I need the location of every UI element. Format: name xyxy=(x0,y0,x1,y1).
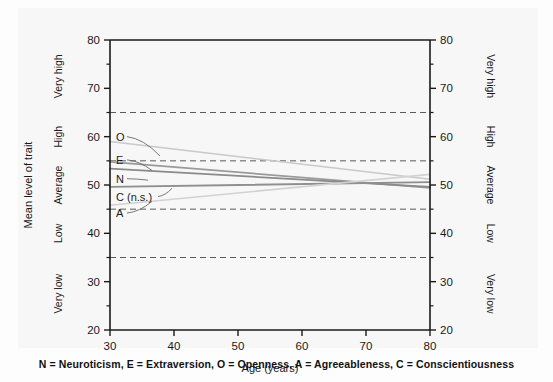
category-label-right-very-low: Very low xyxy=(485,274,497,314)
x-tick-label-60: 60 xyxy=(296,340,309,352)
category-label-right-low: Low xyxy=(485,224,497,244)
y-tick-label-left-80: 80 xyxy=(87,34,100,46)
series-annotation-o: O xyxy=(116,131,125,143)
y-tick-label-left-30: 30 xyxy=(87,276,100,288)
y-tick-label-right-20: 20 xyxy=(440,324,453,336)
leader-line-cns xyxy=(158,188,172,196)
y-tick-label-right-60: 60 xyxy=(440,131,453,143)
x-tick-label-70: 70 xyxy=(360,340,373,352)
x-tick-label-50: 50 xyxy=(232,340,245,352)
category-label-right-very-high: Very high xyxy=(485,54,497,98)
y-tick-label-right-50: 50 xyxy=(440,179,453,191)
category-label-left-high: High xyxy=(52,126,64,148)
series-annotation-e: E xyxy=(116,154,123,166)
y-axis-title: Mean level of trait xyxy=(22,142,34,229)
y-tick-label-right-30: 30 xyxy=(440,276,453,288)
series-line-A xyxy=(110,174,430,205)
y-tick-label-left-20: 20 xyxy=(87,324,100,336)
x-tick-label-30: 30 xyxy=(104,340,117,352)
y-tick-label-right-70: 70 xyxy=(440,82,453,94)
line-chart: 2020303040405050606070708080304050607080… xyxy=(0,0,553,382)
category-label-right-average: Average xyxy=(485,166,497,205)
x-tick-label-40: 40 xyxy=(168,340,181,352)
figure-caption: N = Neuroticism, E = Extraversion, O = O… xyxy=(0,358,553,370)
figure-container: 2020303040405050606070708080304050607080… xyxy=(0,0,553,382)
series-annotation-cns: C (n.s.) xyxy=(116,191,152,203)
y-tick-label-left-60: 60 xyxy=(87,131,100,143)
y-tick-label-left-50: 50 xyxy=(87,179,100,191)
series-annotation-a: A xyxy=(116,207,124,219)
y-tick-label-right-40: 40 xyxy=(440,227,453,239)
y-tick-label-right-80: 80 xyxy=(440,34,453,46)
y-tick-label-left-70: 70 xyxy=(87,82,100,94)
category-label-left-very-low: Very low xyxy=(52,273,64,313)
leader-line-n xyxy=(127,179,148,180)
category-label-right-high: High xyxy=(485,126,497,148)
category-label-left-low: Low xyxy=(52,223,64,243)
category-label-left-average: Average xyxy=(52,165,64,204)
category-label-left-very-high: Very high xyxy=(52,54,64,98)
y-tick-label-left-40: 40 xyxy=(87,227,100,239)
x-tick-label-80: 80 xyxy=(424,340,437,352)
series-annotation-n: N xyxy=(116,173,124,185)
